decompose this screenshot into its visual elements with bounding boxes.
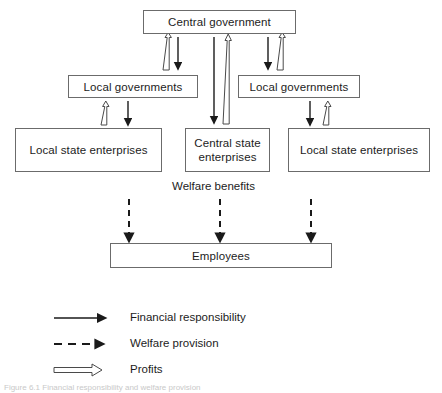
welfare-benefits-label: Welfare benefits [172, 179, 255, 193]
arrow-local-gov-left-to-central-gov-profits [163, 33, 171, 71]
node-local-governments-left-label: Local governments [80, 80, 187, 94]
node-local-state-enterprises-right-label: Local state enterprises [296, 143, 422, 157]
dashed-arrow-icon [52, 331, 114, 357]
legend-label-welfare-provision: Welfare provision [130, 336, 219, 351]
node-employees: Employees [110, 243, 332, 268]
arrow-local-gov-right-to-central-gov-profits [277, 33, 285, 71]
arrow-enterprises-left-to-local-gov-left-profits [101, 101, 109, 125]
legend-item-profits: Profits [52, 357, 382, 383]
node-central-state-enterprises-label: Central state enterprises [186, 136, 269, 164]
node-local-governments-right-label: Local governments [246, 80, 353, 94]
figure-canvas: Central government Local governments Loc… [0, 0, 442, 393]
node-employees-label: Employees [188, 249, 254, 263]
node-local-state-enterprises-left: Local state enterprises [15, 128, 162, 172]
legend: Financial responsibility Welfare provisi… [52, 305, 382, 383]
arrow-central-enterprises-to-central-gov-profits [223, 34, 231, 124]
node-central-government: Central government [143, 10, 296, 34]
arrow-enterprises-right-to-local-gov-right-profits [323, 101, 331, 125]
figure-caption: Figure 6.1 Financial responsibility and … [4, 383, 201, 393]
hollow-arrow-icon [52, 357, 114, 383]
node-central-government-label: Central government [164, 15, 275, 29]
node-local-state-enterprises-right: Local state enterprises [288, 128, 430, 172]
solid-arrow-icon [52, 305, 114, 331]
legend-item-financial-responsibility: Financial responsibility [52, 305, 382, 331]
node-local-governments-right: Local governments [238, 75, 360, 98]
node-local-state-enterprises-left-label: Local state enterprises [25, 143, 151, 157]
node-central-state-enterprises: Central state enterprises [185, 128, 270, 172]
node-local-governments-left: Local governments [68, 75, 198, 98]
legend-label-financial-responsibility: Financial responsibility [130, 310, 246, 325]
legend-item-welfare-provision: Welfare provision [52, 331, 382, 357]
legend-label-profits: Profits [130, 362, 163, 377]
